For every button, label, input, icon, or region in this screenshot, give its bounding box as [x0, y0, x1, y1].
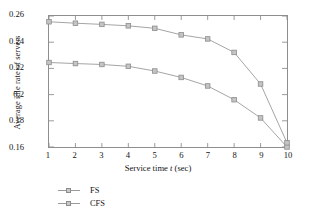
data-point-cfs-4 [126, 24, 131, 29]
series-line-fs [49, 63, 287, 147]
x-tick-label: 9 [251, 150, 271, 160]
x-tick-label: 10 [278, 150, 298, 160]
data-point-cfs-10 [285, 141, 290, 146]
y-axis-label: Average idle rate of servers [13, 8, 22, 158]
x-tick-label: 8 [225, 150, 245, 160]
x-tick-label: 3 [91, 150, 111, 160]
y-tick-label: 0.22 [0, 62, 24, 72]
data-point-fs-5 [152, 69, 157, 74]
data-series-group [47, 19, 290, 149]
x-axis-label: Service time t (sec) [0, 163, 316, 173]
x-tick-label: 6 [171, 150, 191, 160]
data-point-fs-9 [258, 116, 263, 121]
data-point-cfs-8 [232, 50, 237, 55]
data-point-cfs-5 [152, 26, 157, 31]
chart-legend: FSCFS [58, 184, 105, 210]
y-tick-label: 0.24 [0, 36, 24, 46]
x-tick-label: 4 [118, 150, 138, 160]
data-point-fs-4 [126, 64, 131, 69]
data-point-fs-1 [47, 60, 52, 65]
y-tick-label: 0.26 [0, 9, 24, 19]
x-tick-label: 2 [65, 150, 85, 160]
data-point-fs-7 [205, 84, 210, 89]
x-axis-label-post: (sec) [172, 163, 191, 173]
figure-container: Average idle rate of servers 0.160.180.2… [0, 0, 316, 219]
y-tick-label: 0.16 [0, 142, 24, 152]
legend-marker-icon [58, 198, 80, 209]
data-point-fs-3 [100, 62, 105, 67]
data-point-fs-6 [179, 75, 184, 80]
plot-area [48, 15, 288, 148]
data-point-cfs-2 [73, 21, 78, 26]
x-tick-label: 5 [145, 150, 165, 160]
data-point-cfs-9 [258, 82, 263, 87]
data-point-cfs-7 [205, 37, 210, 42]
legend-item-cfs: CFS [58, 197, 105, 210]
data-point-cfs-6 [179, 33, 184, 38]
legend-item-fs: FS [58, 184, 105, 197]
y-tick-label: 0.2 [0, 89, 24, 99]
chart-canvas [49, 16, 287, 147]
data-point-cfs-3 [100, 22, 105, 27]
data-point-fs-2 [73, 61, 78, 66]
data-point-cfs-1 [47, 19, 52, 24]
series-line-cfs [49, 22, 287, 143]
x-tick-label: 7 [198, 150, 218, 160]
legend-marker-icon [58, 185, 80, 196]
x-axis-label-pre: Service time [125, 163, 170, 173]
axis-ticks [49, 16, 287, 147]
x-tick-label: 1 [38, 150, 58, 160]
data-point-fs-8 [232, 97, 237, 102]
y-tick-label: 0.18 [0, 115, 24, 125]
legend-label: FS [90, 186, 99, 195]
legend-label: CFS [90, 199, 105, 208]
